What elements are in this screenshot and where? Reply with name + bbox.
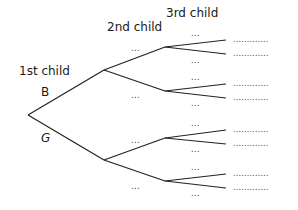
header-2nd-child: 2nd child xyxy=(107,20,162,34)
edge-3-5 xyxy=(165,130,226,138)
outcome-7: ............. xyxy=(233,169,269,178)
edge-3-6 xyxy=(165,138,226,144)
level3-label-3: ... xyxy=(191,73,200,82)
header-3rd-child: 3rd child xyxy=(166,6,218,20)
edge-G-lower xyxy=(104,160,165,181)
edge-3-3 xyxy=(165,84,226,91)
edge-3-4 xyxy=(165,91,226,98)
level2-label-3: ... xyxy=(131,136,140,145)
tree-diagram: 1st child 2nd child 3rd child B G ... ..… xyxy=(0,0,298,210)
level3-label-7: ... xyxy=(191,163,200,172)
outcome-3: ............. xyxy=(233,79,269,88)
header-1st-child: 1st child xyxy=(19,64,70,78)
outcome-8: ............. xyxy=(233,183,269,192)
level2-label-2: ... xyxy=(131,91,140,100)
level2-label-4: ... xyxy=(131,182,140,191)
edge-B-lower xyxy=(104,70,165,91)
level3-label-1: ... xyxy=(191,29,200,38)
edge-3-8 xyxy=(165,181,226,188)
level2-label-1: ... xyxy=(131,44,140,53)
level3-label-2: ... xyxy=(191,56,200,65)
level3-label-6: ... xyxy=(191,145,200,154)
edge-3-2 xyxy=(165,47,226,54)
outcome-1: ............. xyxy=(233,35,269,44)
outcome-5: ............. xyxy=(233,125,269,134)
branch-label-B: B xyxy=(41,85,49,99)
level3-label-5: ... xyxy=(191,119,200,128)
edge-3-1 xyxy=(165,40,226,47)
level3-label-4: ... xyxy=(191,99,200,108)
edge-root-G xyxy=(28,115,104,160)
outcome-2: ............. xyxy=(233,49,269,58)
outcome-6: ............. xyxy=(233,139,269,148)
outcome-4: ............. xyxy=(233,93,269,102)
level3-label-8: ... xyxy=(191,189,200,198)
branch-label-G: G xyxy=(41,131,50,145)
edge-3-7 xyxy=(165,174,226,181)
